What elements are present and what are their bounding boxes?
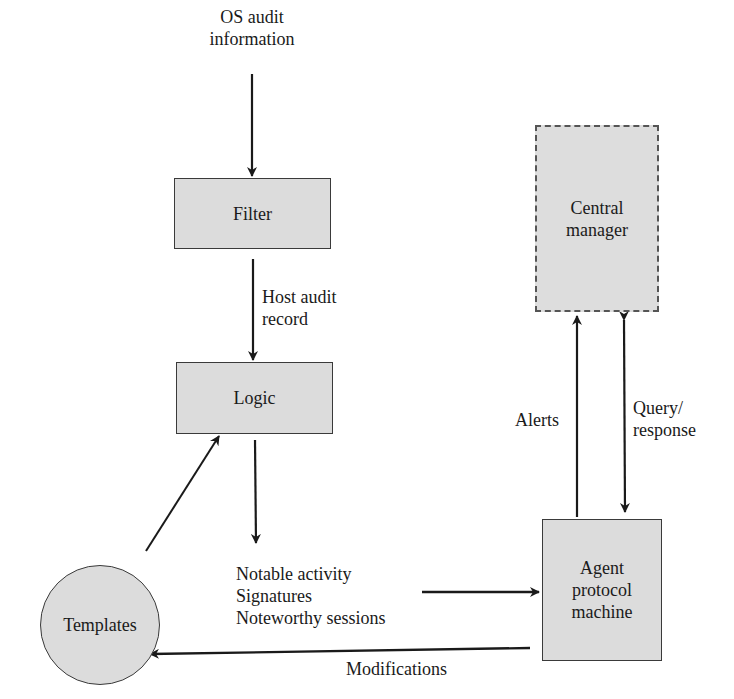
agent-line1: Agent (572, 557, 633, 579)
logic-label: Logic (234, 387, 276, 409)
query-line1: Query/ (633, 397, 696, 419)
notable-activity-label: Notable activity Signatures Noteworthy s… (236, 563, 386, 629)
notable-line1: Notable activity (236, 563, 386, 585)
agent-protocol-machine-node: Agent protocol machine (542, 519, 662, 661)
notable-line3: Noteworthy sessions (236, 607, 386, 629)
arrow-query-response (624, 320, 625, 512)
query-line2: response (633, 419, 696, 441)
central-manager-line1: Central (566, 197, 628, 219)
arrow-logic-to-notable (255, 440, 256, 543)
alerts-label: Alerts (515, 409, 559, 431)
arrow-agent-to-templates-modifications (150, 648, 530, 654)
host-audit-line2: record (262, 308, 337, 330)
agent-line3: machine (572, 601, 633, 623)
os-audit-label: OS audit information (192, 6, 312, 50)
filter-node: Filter (174, 178, 331, 249)
host-audit-line1: Host audit (262, 286, 337, 308)
os-audit-line2: information (192, 28, 312, 50)
notable-line2: Signatures (236, 585, 386, 607)
templates-label: Templates (63, 615, 137, 636)
os-audit-line1: OS audit (192, 6, 312, 28)
logic-node: Logic (176, 362, 333, 434)
host-audit-label: Host audit record (262, 286, 337, 330)
query-response-label: Query/ response (633, 397, 696, 441)
central-manager-line2: manager (566, 219, 628, 241)
arrow-templates-to-logic (146, 436, 219, 551)
agent-line2: protocol (572, 579, 633, 601)
central-manager-node: Central manager (535, 125, 659, 312)
modifications-label: Modifications (346, 658, 447, 680)
filter-label: Filter (233, 203, 272, 225)
diagram-canvas: OS audit information Filter Host audit r… (0, 0, 734, 699)
templates-node: Templates (40, 565, 160, 685)
